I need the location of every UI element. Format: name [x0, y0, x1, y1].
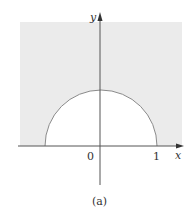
tick-label-one: 1	[153, 150, 160, 163]
x-axis-label: x	[175, 149, 182, 162]
y-axis-arrow-icon	[98, 12, 103, 21]
figure-canvas: y x 0 1 (a)	[0, 0, 191, 223]
shaded-region	[20, 22, 182, 146]
y-axis-label: y	[89, 11, 97, 24]
figure-caption: (a)	[92, 195, 107, 208]
tick-label-origin: 0	[87, 150, 94, 163]
